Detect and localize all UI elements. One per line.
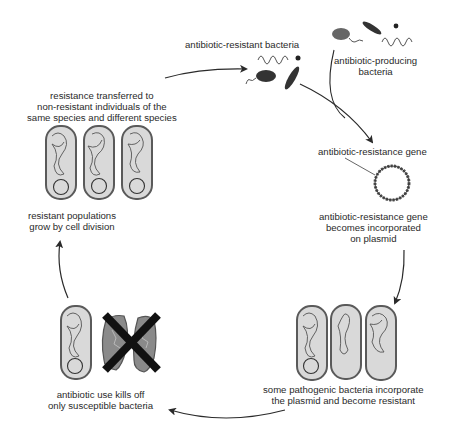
antibiotic-resistance-cycle-diagram: antibiotic-resistant bacteria antibiotic… bbox=[0, 0, 459, 447]
label-pathogenic-incorporate: some pathogenic bacteria incorporate the… bbox=[263, 384, 424, 406]
label-antibiotic-kills: antibiotic use kills off only susceptibl… bbox=[48, 389, 153, 411]
producing-bacteria-cluster bbox=[332, 20, 412, 46]
label-plasmid-incorporation: antibiotic-resistance gene becomes incor… bbox=[319, 211, 428, 244]
label-resistance-gene: antibiotic-resistance gene bbox=[318, 146, 427, 157]
arrow-resistant-to-gene bbox=[300, 84, 372, 142]
arrow-antibiotic-to-populations bbox=[59, 242, 68, 298]
cell bbox=[122, 126, 152, 199]
arrow-transfer-to-resistant bbox=[165, 69, 246, 78]
cell bbox=[84, 126, 114, 199]
cell bbox=[366, 306, 396, 380]
surviving-cell bbox=[61, 306, 91, 379]
pathogenic-bacteria-cells bbox=[297, 305, 396, 380]
label-populations-grow: resistant populations grow by cell divis… bbox=[28, 210, 116, 232]
cell bbox=[46, 126, 76, 199]
arrow-plasmid-to-pathogenic bbox=[395, 250, 404, 303]
resistant-population-cells bbox=[46, 126, 152, 199]
label-resistant-bacteria: antibiotic-resistant bacteria bbox=[185, 39, 299, 50]
cell bbox=[297, 306, 327, 380]
antibiotic-selection-cells bbox=[61, 306, 158, 379]
resistant-bacteria-cluster bbox=[246, 56, 302, 92]
label-producing-bacteria: antibiotic-producing bacteria bbox=[334, 55, 417, 77]
arrow-pathogenic-to-antibiotic bbox=[170, 410, 285, 418]
label-resistance-transferred: resistance transferred to non-resistant … bbox=[27, 90, 177, 123]
plasmid-icon bbox=[345, 158, 409, 200]
cell bbox=[331, 305, 361, 379]
